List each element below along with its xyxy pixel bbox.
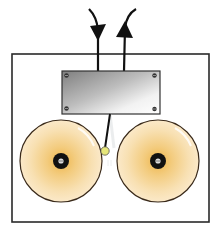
- electromagnet-plate: [62, 71, 160, 114]
- arrow-up-icon: [116, 21, 133, 38]
- hammer-ball: [101, 147, 109, 155]
- left-gong: [20, 120, 102, 202]
- screw-icon: [152, 73, 156, 77]
- screw-icon: [152, 107, 156, 111]
- right-gong: [117, 120, 199, 202]
- screw-icon: [64, 73, 68, 77]
- screw-icon: [64, 106, 68, 110]
- arrow-down-icon: [90, 24, 106, 41]
- electric-bell-diagram: [0, 0, 220, 231]
